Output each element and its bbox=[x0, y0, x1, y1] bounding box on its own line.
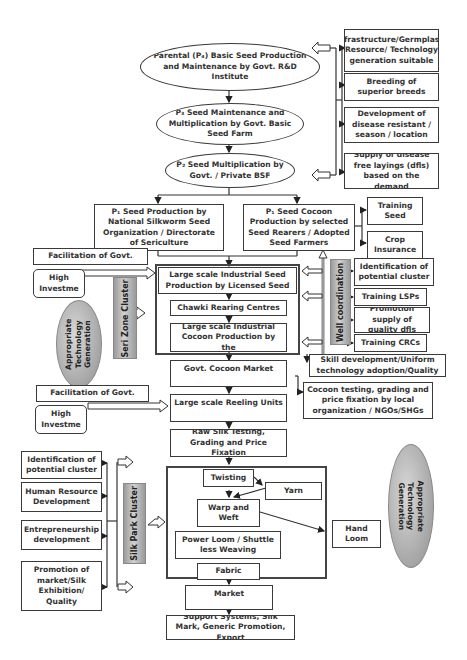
facilitation-govt-box-2: Facilitation of Govt. bbox=[36, 385, 149, 402]
silk-park-cluster-label: Silk Park Cluster bbox=[123, 483, 146, 564]
tech-generation-oval-left: Appropriate Technology Generation bbox=[56, 300, 102, 388]
chawki-rearing-box: Chawki Rearing Centres bbox=[170, 300, 287, 316]
p4-basic-seed-ellipse: Parental (P₄) Basic Seed Production and … bbox=[140, 43, 320, 91]
rd-support-dfls-supply: Supply of disease free layings (dfls) ba… bbox=[344, 153, 439, 189]
p2-seed-multiplication-ellipse: P₂ Seed Multiplication by Govt. / Privat… bbox=[165, 153, 295, 188]
p1-seed-production-box: P₁ Seed Production by National Silkworm … bbox=[94, 204, 224, 251]
raw-silk-testing-box: Raw Silk Testing, Grading and Price Fixa… bbox=[170, 429, 287, 457]
tech-generation-text-left: Appropriate Technology Generation bbox=[65, 318, 94, 369]
industrial-cocoon-production-box: Large scale Industrial Cocoon Production… bbox=[170, 323, 287, 352]
market-box: Market bbox=[185, 585, 273, 610]
sp-human-resource: Human Resource Development bbox=[21, 482, 102, 512]
wc-promotion-dfls: Promotion supply of quality dfls bbox=[354, 307, 430, 333]
support-systems-box: Support Systems, Silk Mark, Generic Prom… bbox=[166, 615, 295, 640]
silk-park-cluster-text: Silk Park Cluster bbox=[130, 486, 139, 561]
p1-seed-cocoon-box: P₁ Seed Cocoon Production by selected Se… bbox=[243, 204, 355, 251]
high-investment-box-2: High Investme bbox=[35, 405, 87, 434]
well-coordination-label: Well coordination bbox=[330, 259, 351, 345]
wc-training-crcs: Training CRCs bbox=[354, 334, 427, 352]
yarn-box: Yarn bbox=[265, 482, 322, 500]
sp-entrepreneurship: Entrepreneurship development bbox=[21, 520, 102, 550]
facilitation-govt-box-1: Facilitation of Govt. bbox=[33, 248, 148, 265]
fabric-box: Fabric bbox=[197, 563, 260, 580]
sp-identification-cluster: Identification of potential cluster bbox=[21, 451, 102, 479]
cocoon-testing-box: Cocoon testing, grading and price fixati… bbox=[303, 382, 433, 419]
rd-support-breeding: Breeding of superior breeds bbox=[344, 73, 439, 101]
high-investment-box-1: High Investme bbox=[33, 269, 85, 298]
govt-cocoon-market-box: Govt. Cocoon Market bbox=[170, 360, 287, 387]
wc-identification-cluster: Identification of potential cluster bbox=[354, 258, 434, 286]
hand-loom-box: Hand Loom bbox=[332, 520, 381, 548]
sp-promotion-market: Promotion of market/Silk Exhibition/ Qua… bbox=[21, 561, 102, 611]
wc-training-lsps: Training LSPs bbox=[354, 288, 427, 306]
reeling-units-box: Large scale Reeling Units bbox=[170, 394, 287, 422]
well-coordination-text: Well coordination bbox=[336, 262, 345, 341]
industrial-seed-production-box: Large scale Industrial Seed Production b… bbox=[158, 267, 297, 294]
training-seed-box: Training Seed bbox=[367, 197, 423, 225]
warp-weft-box: Warp and Weft bbox=[197, 499, 260, 527]
crop-insurance-box: Crop Insurance bbox=[367, 231, 423, 259]
rd-support-infrastructure: Infrastructure/Germplasm Resource/ Techn… bbox=[344, 29, 439, 72]
tech-generation-text-right: Appropriate Technology Generation bbox=[397, 480, 426, 531]
power-loom-box: Power Loom / Shuttle less Weaving bbox=[175, 531, 281, 559]
rd-support-disease-resistant: Development of disease resistant / seaso… bbox=[344, 107, 439, 143]
seri-zone-cluster-text: Seri Zone Cluster bbox=[121, 279, 130, 357]
skill-development-box: Skill development/Uniform technology ado… bbox=[309, 354, 446, 377]
twisting-box: Twisting bbox=[203, 469, 254, 487]
seri-zone-cluster-label: Seri Zone Cluster bbox=[113, 277, 137, 359]
p3-seed-maintenance-ellipse: P₃ Seed Maintenance and Multiplication b… bbox=[156, 103, 304, 145]
tech-generation-oval-right: Appropriate Technology Generation bbox=[388, 444, 434, 568]
